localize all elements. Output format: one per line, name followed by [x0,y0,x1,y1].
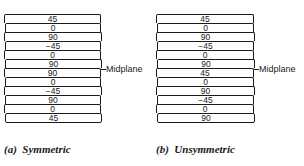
ply-11: 0 [156,104,254,113]
ply-5: 0 [4,50,101,59]
ply-3: 90 [156,32,255,41]
ply-3: 90 [4,32,102,41]
ply-10: 90 [5,95,101,104]
ply-1: 45 [156,14,254,23]
ply-6: 90 [5,59,102,68]
ply-6: 90 [157,59,255,68]
caption-symmetric: (a) Symmetric [4,143,71,155]
ply-12: 90 [157,113,255,123]
midplane-label: Midplane [259,64,296,74]
ply-8: 0 [5,77,101,86]
ply-5: 0 [156,50,254,59]
midplane-label: Midplane [106,64,143,74]
ply-12: 45 [5,113,102,123]
ply-10: −45 [157,95,254,104]
unsymmetric-laminate-stack: 45 0 90 −45 0 90 45 0 90 −45 0 90 [157,14,254,123]
ply-2: 0 [157,23,254,32]
ply-2: 0 [5,23,101,32]
ply-4: −45 [157,41,254,50]
ply-9: 90 [156,86,255,95]
ply-7: 45 [156,68,254,77]
symmetric-laminate-stack: 45 0 90 −45 0 90 90 0 −45 90 0 45 [5,14,101,123]
caption-unsymmetric: (b) Unsymmetric [156,143,235,155]
ply-4: −45 [5,41,101,50]
ply-7: 90 [4,68,101,77]
ply-8: 0 [157,77,254,86]
ply-1: 45 [4,14,101,23]
ply-11: 0 [4,104,101,113]
ply-9: −45 [4,86,102,95]
